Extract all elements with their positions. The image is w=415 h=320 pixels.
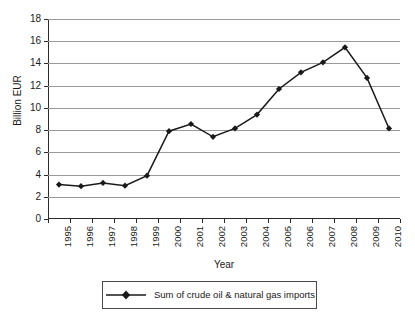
x-tick-mark (202, 219, 203, 223)
x-tick-label: 2007 (327, 226, 337, 247)
y-tick-label: 4 (35, 170, 41, 180)
x-tick-label: 2003 (239, 226, 249, 247)
data-point-marker (122, 183, 128, 189)
x-tick-mark (378, 219, 379, 223)
y-tick-label: 2 (35, 192, 41, 202)
x-tick-mark (290, 219, 291, 223)
x-tick-label: 2006 (305, 226, 315, 247)
x-tick-mark (268, 219, 269, 223)
data-point-marker (100, 180, 106, 186)
x-tick-label: 2000 (173, 226, 183, 247)
legend-marker-icon (104, 289, 148, 301)
x-tick-mark (158, 219, 159, 223)
x-tick-label: 2005 (283, 226, 293, 247)
y-tick-label: 12 (30, 81, 41, 91)
x-tick-label: 2001 (195, 226, 205, 247)
x-tick-label: 1996 (85, 226, 95, 247)
series-path (59, 47, 389, 186)
y-tick-label: 10 (30, 103, 41, 113)
x-tick-label: 1999 (151, 226, 161, 247)
x-tick-label: 2002 (217, 226, 227, 247)
data-point-marker (210, 134, 216, 140)
x-tick-mark (92, 219, 93, 223)
series-line-sum-of-crude-oil-and-natural-gas-imports (48, 19, 400, 219)
y-tick-label: 6 (35, 147, 41, 157)
x-tick-mark (180, 219, 181, 223)
x-tick-label: 2004 (261, 226, 271, 247)
x-tick-label: 1997 (107, 226, 117, 247)
data-point-marker (166, 128, 172, 134)
plot-area: 024681012141618 199519961997199819992000… (48, 19, 400, 219)
x-tick-label: 1998 (129, 226, 139, 247)
x-tick-mark (136, 219, 137, 223)
x-tick-mark (48, 219, 49, 223)
y-tick-label: 16 (30, 36, 41, 46)
y-axis-title: Billion EUR (12, 46, 23, 156)
y-tick-label: 14 (30, 58, 41, 68)
legend-item-label: Sum of crude oil & natural gas imports (154, 290, 315, 300)
x-tick-mark (246, 219, 247, 223)
x-tick-mark (224, 219, 225, 223)
data-point-marker (386, 125, 392, 131)
y-tick-label: 0 (35, 214, 41, 224)
data-point-marker (78, 183, 84, 189)
x-tick-label: 2010 (393, 226, 403, 247)
data-point-marker (56, 181, 62, 187)
chart-legend: Sum of crude oil & natural gas imports (102, 281, 317, 309)
y-tick-label: 18 (30, 14, 41, 24)
data-point-marker (188, 121, 194, 127)
chart-figure: Billion EUR 024681012141618 199519961997… (0, 0, 415, 320)
x-tick-label: 2008 (349, 226, 359, 247)
data-point-marker (144, 173, 150, 179)
x-tick-label: 1995 (63, 226, 73, 247)
x-tick-mark (70, 219, 71, 223)
x-tick-mark (356, 219, 357, 223)
x-tick-label: 2009 (371, 226, 381, 247)
x-tick-mark (334, 219, 335, 223)
y-tick-label: 8 (35, 125, 41, 135)
x-axis-title: Year (48, 259, 400, 270)
x-tick-mark (312, 219, 313, 223)
x-tick-mark (114, 219, 115, 223)
x-tick-mark (400, 219, 401, 223)
